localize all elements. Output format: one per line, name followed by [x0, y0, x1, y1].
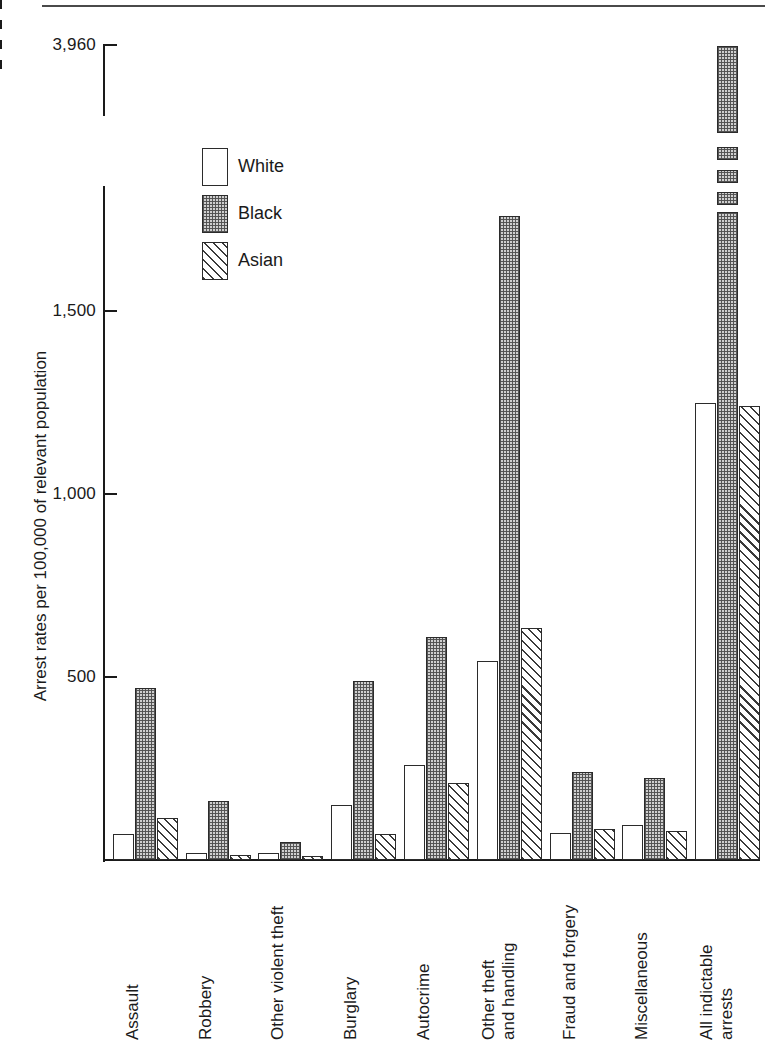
y-tick-mark-500 [105, 676, 117, 678]
x-axis-label-8: All indictablearrests [697, 945, 737, 1040]
bar-asian-4 [448, 783, 469, 860]
bar-black-3 [353, 681, 374, 860]
chart-page: 3,960 1,500 1,000 500 Arrest rates per 1… [0, 0, 765, 1062]
x-axis-label-4: Autocrime [414, 963, 434, 1040]
bar-black-6 [572, 772, 593, 860]
x-axis-label-2: Other violent theft [268, 906, 288, 1040]
bar-black-8-seg2 [717, 170, 738, 183]
bar-black-8-seg3 [717, 192, 738, 205]
x-axis-label-6-line0: Fraud and forgery [560, 905, 580, 1040]
legend-label-asian: Asian [238, 250, 283, 271]
bar-asian-2 [302, 856, 323, 860]
y-tick-mark-1000 [105, 493, 117, 495]
bar-black-8-seg0 [717, 46, 738, 133]
x-axis-label-5-line0: Other theft [479, 943, 499, 1040]
x-axis-label-0-line0: Assault [123, 984, 143, 1040]
x-axis-label-6: Fraud and forgery [560, 905, 580, 1040]
bar-asian-3 [375, 834, 396, 860]
bar-black-7 [644, 778, 665, 860]
bar-white-2 [258, 853, 279, 860]
legend-label-black: Black [238, 203, 282, 224]
bar-asian-0 [157, 818, 178, 860]
bar-black-2 [280, 842, 301, 860]
bar-white-5 [477, 661, 498, 860]
bar-chart: 3,960 1,500 1,000 500 Arrest rates per 1… [0, 0, 765, 1062]
x-axis-label-3-line0: Burglary [341, 977, 361, 1040]
bar-white-3 [331, 805, 352, 860]
bar-white-6 [550, 833, 571, 860]
bar-white-7 [622, 825, 643, 860]
x-axis-label-1: Robbery [196, 976, 216, 1040]
bar-black-4 [426, 637, 447, 860]
bar-asian-7 [666, 831, 687, 860]
legend-swatch-black-icon [202, 195, 228, 233]
bar-asian-8 [739, 406, 760, 860]
y-axis-lower-segment [103, 186, 105, 862]
legend-swatch-asian-icon [202, 242, 228, 280]
bar-white-1 [186, 853, 207, 860]
x-axis-label-8-line1: arrests [717, 945, 737, 1040]
bar-black-5 [499, 216, 520, 860]
legend-swatch-white-icon [202, 148, 228, 186]
bar-black-0 [135, 688, 156, 860]
bar-white-4 [404, 765, 425, 860]
x-axis-label-5-line1: and handling [499, 943, 519, 1040]
x-axis-label-4-line0: Autocrime [414, 963, 434, 1040]
x-axis-label-0: Assault [123, 984, 143, 1040]
legend-label-white: White [238, 156, 284, 177]
x-axis-label-5: Other theftand handling [479, 943, 519, 1040]
bar-asian-1 [230, 855, 251, 860]
bar-black-8-seg1 [717, 147, 738, 160]
x-axis-label-2-line0: Other violent theft [268, 906, 288, 1040]
bar-asian-6 [594, 829, 615, 860]
y-axis-title: Arrest rates per 100,000 of relevant pop… [31, 311, 51, 741]
bar-black-1 [208, 801, 229, 860]
y-tick-label-3960: 3,960 [0, 35, 96, 55]
y-tick-mark-3960 [105, 44, 117, 46]
y-tick-mark-1500 [105, 310, 117, 312]
bar-black-8-seg4 [717, 212, 738, 860]
x-axis-label-7-line0: Miscellaneous [632, 932, 652, 1040]
bar-asian-5 [521, 628, 542, 860]
bar-white-8 [695, 403, 716, 861]
x-axis-label-7: Miscellaneous [632, 932, 652, 1040]
x-axis-label-8-line0: All indictable [697, 945, 717, 1040]
bar-white-0 [113, 834, 134, 860]
x-axis-label-3: Burglary [341, 977, 361, 1040]
y-axis-upper-segment [103, 44, 105, 116]
x-axis-label-1-line0: Robbery [196, 976, 216, 1040]
